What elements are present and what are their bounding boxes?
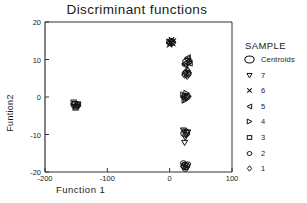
axes	[45, 22, 232, 172]
circle-icon	[243, 147, 256, 160]
series-centroids	[71, 39, 191, 170]
data-point	[182, 140, 188, 145]
triangle-down-icon	[243, 69, 256, 82]
cross-x-icon	[243, 84, 256, 97]
legend-item-label: Centroids	[261, 55, 295, 64]
y-tick-label: -20	[0, 168, 41, 177]
legend-item-label: 7	[261, 71, 265, 80]
triangle-left-icon	[243, 100, 256, 113]
legend-item-6[interactable]: 6	[243, 84, 265, 97]
x-tick-label: 0	[168, 174, 172, 183]
axis-ticks	[45, 22, 232, 172]
square-icon	[243, 131, 256, 144]
discriminant-functions-chart: Discriminant functions -200-1000100 2010…	[0, 0, 307, 203]
x-tick-label: 100	[226, 174, 239, 183]
legend-item-7[interactable]: 7	[243, 69, 265, 82]
legend-item-label: 6	[261, 86, 265, 95]
y-axis-label: Funtion2	[5, 83, 15, 143]
legend-item-2[interactable]: 2	[243, 147, 265, 160]
legend-item-3[interactable]: 3	[243, 131, 265, 144]
data-points	[71, 37, 192, 171]
legend-item-label: 2	[261, 149, 265, 158]
x-tick-label: -100	[100, 174, 115, 183]
y-tick-label: 10	[0, 55, 41, 64]
legend-item-4[interactable]: 4	[243, 115, 265, 128]
legend-item-label: 4	[261, 117, 265, 126]
diamond-icon	[243, 162, 256, 175]
legend-item-5[interactable]: 5	[243, 100, 265, 113]
circle-large-icon	[243, 53, 256, 66]
x-axis-label: Function 1	[56, 184, 105, 195]
triangle-right-icon	[243, 115, 256, 128]
legend-title: SAMPLE	[245, 40, 286, 51]
legend-item-1[interactable]: 1	[243, 162, 265, 175]
y-tick-label: 20	[0, 18, 41, 27]
legend-item-label: 3	[261, 133, 265, 142]
legend-item-centroids[interactable]: Centroids	[243, 53, 295, 66]
legend-item-label: 1	[261, 164, 265, 173]
legend-item-label: 5	[261, 102, 265, 111]
